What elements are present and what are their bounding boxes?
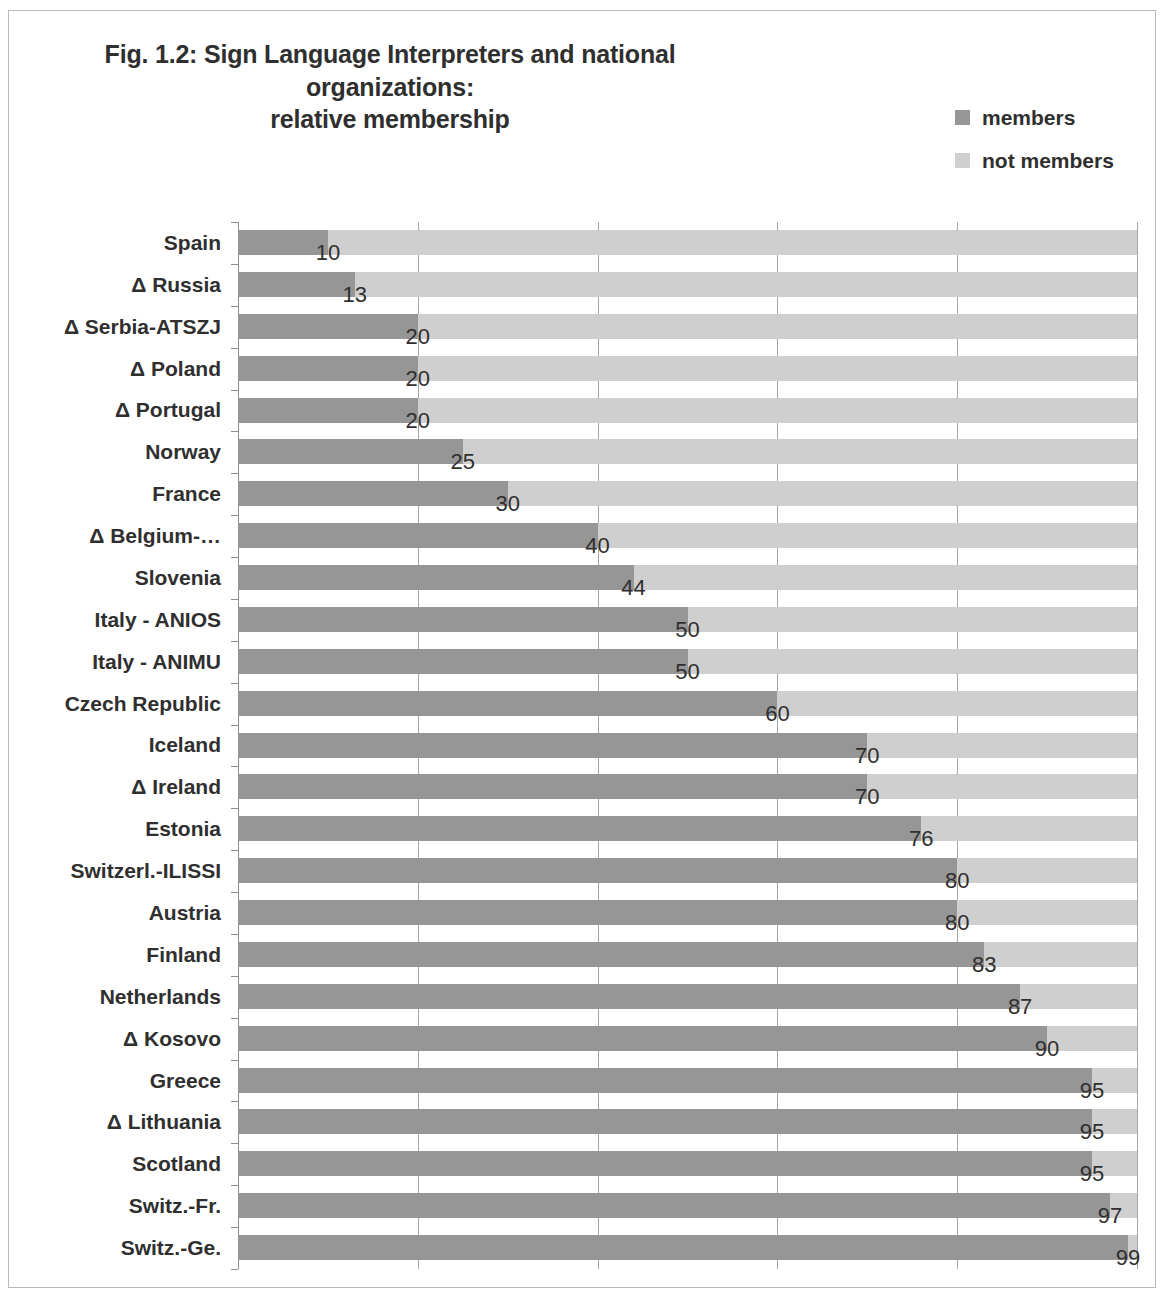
axis-tick xyxy=(231,557,238,558)
bar-row[interactable]: 20 xyxy=(238,390,1137,432)
bar-row[interactable]: 99 xyxy=(238,1227,1137,1269)
legend-item[interactable]: members xyxy=(955,96,1155,139)
bar-segment-not-members[interactable] xyxy=(957,900,1137,925)
bar-segment-members[interactable] xyxy=(238,984,1020,1009)
category-label: France xyxy=(20,473,230,515)
axis-tick xyxy=(231,390,238,391)
chart-legend: membersnot members xyxy=(955,96,1155,182)
bar-row[interactable]: 10 xyxy=(238,222,1137,264)
bar-segment-members[interactable] xyxy=(238,607,688,632)
bar-segment-members[interactable] xyxy=(238,398,418,423)
bar-value-label: 95 xyxy=(1080,1119,1104,1145)
bar-row[interactable]: 83 xyxy=(238,934,1137,976)
category-label: Δ Ireland xyxy=(20,766,230,808)
axis-tick xyxy=(231,1018,238,1019)
bar-segment-not-members[interactable] xyxy=(984,942,1137,967)
bar-segment-members[interactable] xyxy=(238,816,921,841)
bar-segment-members[interactable] xyxy=(238,565,634,590)
bar-segment-members[interactable] xyxy=(238,1193,1110,1218)
bar-segment-members[interactable] xyxy=(238,272,355,297)
bar-track xyxy=(238,900,1137,925)
legend-item-label: members xyxy=(982,106,1075,130)
bar-segment-members[interactable] xyxy=(238,439,463,464)
category-label: Estonia xyxy=(20,808,230,850)
bar-segment-members[interactable] xyxy=(238,858,957,883)
legend-item[interactable]: not members xyxy=(955,139,1155,182)
bar-segment-members[interactable] xyxy=(238,900,957,925)
bar-segment-not-members[interactable] xyxy=(463,439,1137,464)
bar-row[interactable]: 95 xyxy=(238,1101,1137,1143)
bar-segment-members[interactable] xyxy=(238,649,688,674)
bar-value-label: 97 xyxy=(1098,1203,1122,1229)
bar-segment-not-members[interactable] xyxy=(777,691,1137,716)
bar-segment-members[interactable] xyxy=(238,1068,1092,1093)
bar-segment-not-members[interactable] xyxy=(634,565,1137,590)
bar-segment-members[interactable] xyxy=(238,523,598,548)
bar-segment-not-members[interactable] xyxy=(867,774,1137,799)
bar-row[interactable]: 60 xyxy=(238,683,1137,725)
bar-row[interactable]: 44 xyxy=(238,557,1137,599)
bar-row[interactable]: 50 xyxy=(238,641,1137,683)
bar-row[interactable]: 13 xyxy=(238,264,1137,306)
bar-row[interactable]: 25 xyxy=(238,431,1137,473)
axis-tick xyxy=(231,976,238,977)
bar-row[interactable]: 80 xyxy=(238,892,1137,934)
bar-segment-members[interactable] xyxy=(238,1235,1128,1260)
bar-segment-not-members[interactable] xyxy=(355,272,1137,297)
bar-segment-not-members[interactable] xyxy=(688,607,1138,632)
bar-row[interactable]: 20 xyxy=(238,348,1137,390)
bar-segment-members[interactable] xyxy=(238,481,508,506)
bar-track xyxy=(238,1109,1137,1134)
bar-segment-members[interactable] xyxy=(238,356,418,381)
axis-tick xyxy=(231,348,238,349)
bar-row[interactable]: 40 xyxy=(238,515,1137,557)
bar-row[interactable]: 95 xyxy=(238,1143,1137,1185)
bar-row[interactable]: 30 xyxy=(238,473,1137,515)
bar-value-label: 80 xyxy=(945,868,969,894)
bar-row[interactable]: 70 xyxy=(238,725,1137,767)
bar-segment-members[interactable] xyxy=(238,1026,1047,1051)
bar-segment-not-members[interactable] xyxy=(957,858,1137,883)
bar-row[interactable]: 95 xyxy=(238,1060,1137,1102)
legend-swatch-members xyxy=(955,110,970,125)
bar-segment-not-members[interactable] xyxy=(418,398,1137,423)
bar-row[interactable]: 20 xyxy=(238,306,1137,348)
bar-segment-not-members[interactable] xyxy=(418,356,1137,381)
bar-track xyxy=(238,774,1137,799)
bar-row[interactable]: 97 xyxy=(238,1185,1137,1227)
bar-segment-members[interactable] xyxy=(238,1151,1092,1176)
bar-segment-members[interactable] xyxy=(238,314,418,339)
category-label: Greece xyxy=(20,1060,230,1102)
axis-tick xyxy=(231,264,238,265)
bar-row[interactable]: 76 xyxy=(238,808,1137,850)
bar-segment-members[interactable] xyxy=(238,774,867,799)
bar-segment-members[interactable] xyxy=(238,733,867,758)
bar-row[interactable]: 90 xyxy=(238,1018,1137,1060)
chart-title: Fig. 1.2: Sign Language Interpreters and… xyxy=(40,38,740,136)
bar-row[interactable]: 50 xyxy=(238,599,1137,641)
bar-segment-members[interactable] xyxy=(238,230,328,255)
bar-segment-not-members[interactable] xyxy=(598,523,1137,548)
bar-segment-not-members[interactable] xyxy=(418,314,1137,339)
bar-segment-members[interactable] xyxy=(238,942,984,967)
bar-segment-not-members[interactable] xyxy=(867,733,1137,758)
bar-segment-not-members[interactable] xyxy=(1047,1026,1137,1051)
bar-value-label: 30 xyxy=(495,491,519,517)
bar-row[interactable]: 70 xyxy=(238,766,1137,808)
axis-tick xyxy=(231,515,238,516)
bar-segment-members[interactable] xyxy=(238,691,777,716)
bar-track xyxy=(238,398,1137,423)
bar-segment-not-members[interactable] xyxy=(508,481,1137,506)
bar-row[interactable]: 87 xyxy=(238,976,1137,1018)
legend-swatch-not-members xyxy=(955,153,970,168)
bar-track xyxy=(238,565,1137,590)
bar-segment-not-members[interactable] xyxy=(1020,984,1137,1009)
bar-segment-not-members[interactable] xyxy=(688,649,1138,674)
bar-row[interactable]: 80 xyxy=(238,850,1137,892)
axis-tick xyxy=(231,808,238,809)
bar-segment-not-members[interactable] xyxy=(328,230,1137,255)
bar-segment-members[interactable] xyxy=(238,1109,1092,1134)
axis-tick xyxy=(231,306,238,307)
bar-track xyxy=(238,523,1137,548)
bar-segment-not-members[interactable] xyxy=(921,816,1137,841)
